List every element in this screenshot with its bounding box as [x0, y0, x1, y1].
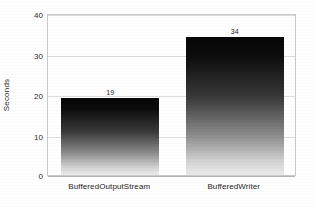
gridline: 40	[48, 15, 295, 16]
gridline: 0	[48, 176, 295, 177]
bar-value-label: 19	[61, 89, 159, 96]
y-tick-label: 20	[34, 92, 43, 101]
y-tick-label: 10	[34, 132, 43, 141]
y-tick-label: 40	[34, 11, 43, 20]
bar-bufferedoutputstream: 19	[61, 98, 159, 175]
bar-bufferedwriter: 34	[186, 37, 284, 175]
y-tick-label: 30	[34, 51, 43, 60]
bar-chart: Seconds 010203040 1934 BufferedOutputStr…	[0, 0, 315, 207]
y-tick-label: 0	[39, 172, 43, 181]
plot-area: 010203040 1934	[47, 14, 296, 176]
x-tick-label: BufferedWriter	[154, 182, 314, 191]
y-axis-title: Seconds	[2, 60, 16, 130]
bar-value-label: 34	[186, 28, 284, 35]
